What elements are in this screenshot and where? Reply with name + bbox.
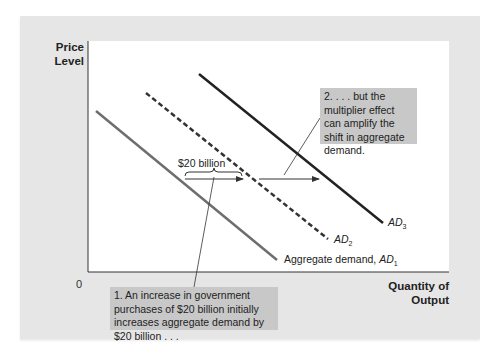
ad3-label: AD3	[388, 216, 407, 230]
ad2-label: AD2	[334, 233, 353, 247]
y-axis-label: Price Level	[40, 40, 84, 68]
brace-label: $20 billion	[178, 157, 225, 169]
x-axis-label: Quantity of Output	[380, 279, 449, 307]
origin-label: 0	[76, 278, 82, 290]
ad1-curve	[96, 111, 277, 260]
brace	[185, 168, 242, 176]
annotation-2: 2. . . . but the multiplier effect can a…	[320, 88, 417, 144]
annotation-1: 1. An increase in government purchases o…	[110, 287, 278, 330]
ad1-label: Aggregate demand, AD1	[284, 253, 398, 267]
ad2-curve	[146, 93, 328, 239]
